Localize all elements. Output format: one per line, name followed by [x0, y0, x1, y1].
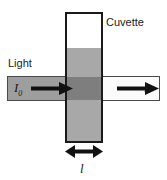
incident-intensity-symbol: I0	[14, 81, 22, 98]
cuvette-light-absorption-diagram: Cuvette Light I0 I l	[0, 0, 167, 180]
cuvette-label: Cuvette	[106, 17, 144, 28]
incident-intensity-subscript: 0	[18, 89, 22, 98]
transmitted-arrow-right-icon	[117, 82, 159, 95]
light-label: Light	[8, 58, 32, 69]
transmitted-intensity-symbol: I	[144, 81, 148, 94]
path-length-symbol: l	[80, 162, 84, 175]
path-length-double-headed-arrow-icon	[65, 145, 103, 158]
incident-arrow-right-icon	[31, 82, 73, 95]
